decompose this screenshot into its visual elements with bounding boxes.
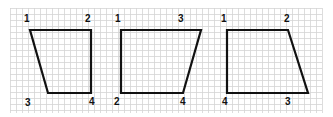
quad-3: 1243	[221, 13, 308, 107]
vertex-label: 2	[114, 96, 120, 107]
vertex-label: 4	[222, 96, 228, 107]
vertex-label: 4	[180, 96, 186, 107]
vertex-label: 1	[24, 13, 30, 24]
quadrilaterals: 123413241243	[24, 13, 308, 108]
quadrilateral-outline	[121, 30, 201, 93]
diagram-canvas: 123413241243	[0, 0, 333, 117]
vertex-label: 3	[25, 97, 31, 108]
vertex-label: 1	[115, 13, 121, 24]
quadrilateral-outline	[30, 30, 91, 93]
quadrilateral-outline	[227, 30, 308, 93]
vertex-label: 1	[221, 13, 227, 24]
graph-paper-grid	[10, 8, 323, 113]
vertex-label: 4	[89, 96, 95, 107]
vertex-label: 3	[285, 96, 291, 107]
vertex-label: 3	[178, 13, 184, 24]
diagram-svg: 123413241243	[0, 0, 333, 117]
vertex-label: 2	[85, 13, 91, 24]
vertex-label: 2	[284, 13, 290, 24]
